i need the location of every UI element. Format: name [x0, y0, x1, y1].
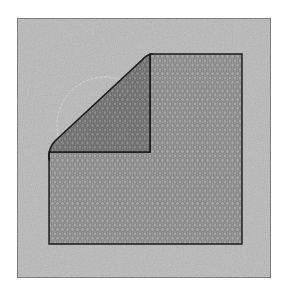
folded-mesh-drawing — [0, 0, 285, 283]
figure-canvas: Folded mesh sheet on square backing — [0, 0, 285, 283]
